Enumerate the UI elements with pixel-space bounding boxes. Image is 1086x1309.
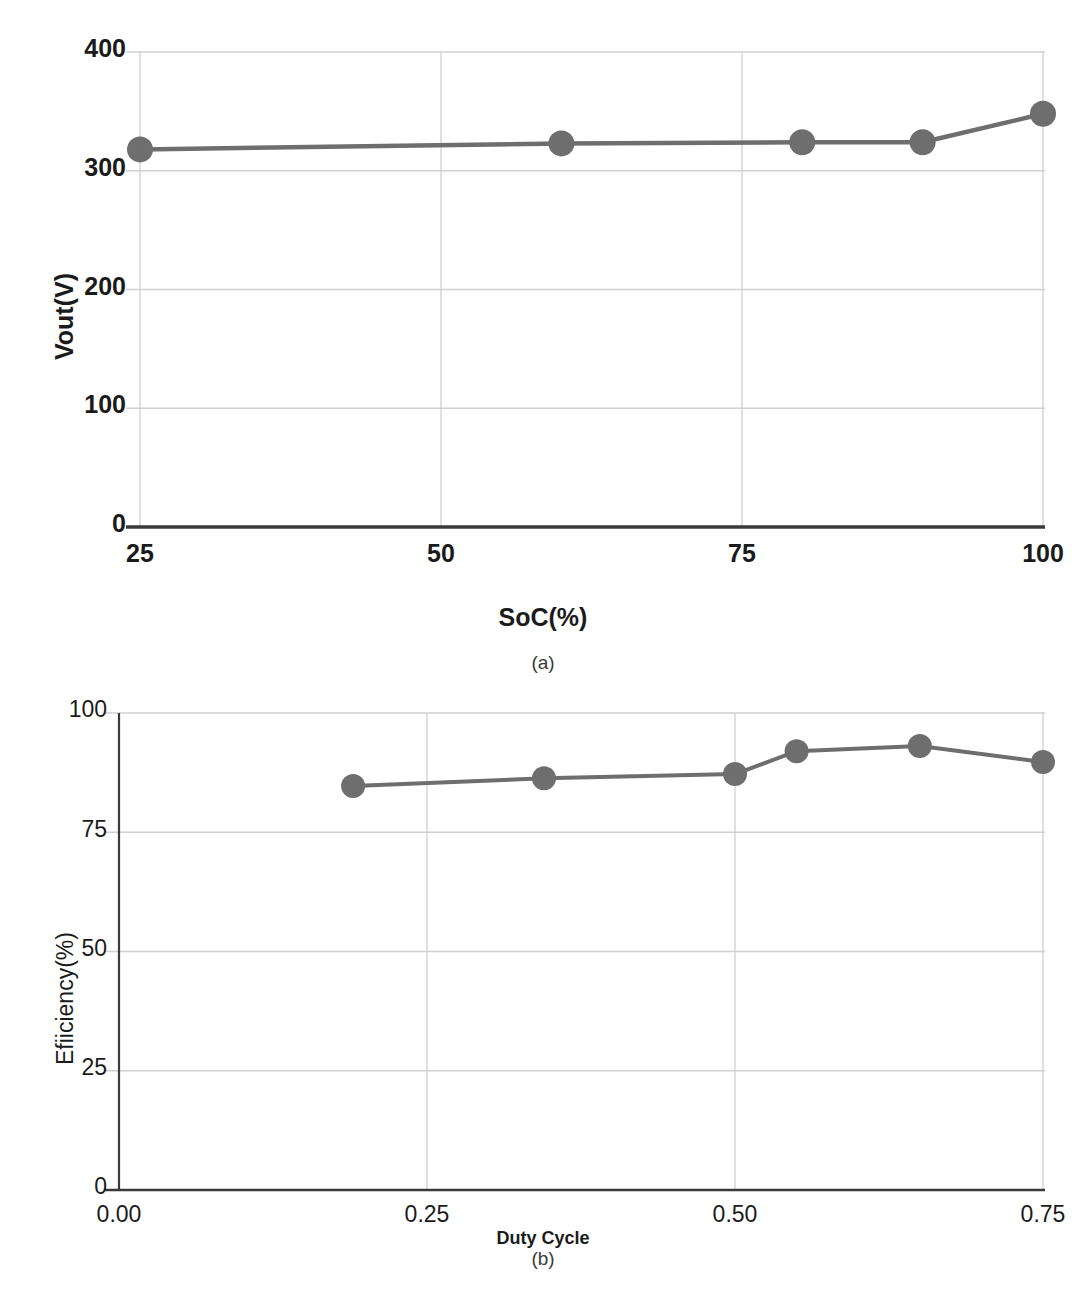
chart-a-xtick-label: 100 — [953, 539, 1086, 568]
chart-a-ytick-label: 300 — [84, 153, 126, 182]
figure-page: 0100200300400255075100 Vout(V) SoC(%) (a… — [0, 0, 1086, 1309]
chart-b-xtick-label: 0.25 — [337, 1201, 517, 1228]
chart-b-svg — [0, 660, 1086, 1220]
chart-b-data-point-3 — [785, 739, 809, 763]
chart-a-series-line — [140, 114, 1043, 150]
chart-b-gridlines — [105, 713, 1045, 1190]
chart-b-ytick-label: 50 — [81, 935, 107, 962]
chart-a-svg — [0, 0, 1086, 620]
chart-a-gridlines — [126, 52, 1045, 527]
chart-a-data-point-4 — [1030, 101, 1056, 127]
chart-a-xtick-label: 50 — [351, 539, 531, 568]
chart-b-ytick-label: 100 — [69, 696, 107, 723]
chart-b-container: 02550751000.000.250.500.75 Efiiciency(%)… — [0, 660, 1086, 1309]
chart-b-ytick-label: 0 — [94, 1173, 107, 1200]
chart-a-container: 0100200300400255075100 Vout(V) SoC(%) — [0, 0, 1086, 660]
chart-a-ytick-label: 200 — [84, 272, 126, 301]
chart-b-ytick-label: 25 — [81, 1054, 107, 1081]
chart-b-data-point-2 — [723, 762, 747, 786]
chart-a-ytick-label: 0 — [112, 509, 126, 538]
chart-b-data-point-0 — [341, 774, 365, 798]
chart-b-ylabel: Efiiciency(%) — [52, 932, 79, 1065]
chart-b-xtick-label: 0.50 — [645, 1201, 825, 1228]
chart-b-series-line — [353, 746, 1043, 786]
chart-b-plot-area: 02550751000.000.250.500.75 — [0, 660, 1086, 1220]
chart-a-data-point-3 — [910, 129, 936, 155]
chart-a-ytick-label: 400 — [84, 34, 126, 63]
chart-b-xtick-label: 0.00 — [29, 1201, 209, 1228]
chart-b-data-point-5 — [1031, 750, 1055, 774]
chart-b-data-point-1 — [532, 766, 556, 790]
chart-a-ylabel: Vout(V) — [50, 273, 79, 360]
chart-a-xtick-label: 25 — [50, 539, 230, 568]
chart-a-data-point-1 — [548, 130, 574, 156]
chart-a-data-point-0 — [127, 136, 153, 162]
chart-a-plot-area: 0100200300400255075100 — [0, 0, 1086, 620]
chart-b-data-point-4 — [908, 734, 932, 758]
chart-b-ytick-label: 75 — [81, 816, 107, 843]
caption-b: (b) — [0, 1248, 1086, 1270]
chart-a-ytick-label: 100 — [84, 390, 126, 419]
chart-a-data-point-2 — [789, 129, 815, 155]
chart-b-xtick-label: 0.75 — [953, 1201, 1086, 1228]
chart-a-xlabel: SoC(%) — [0, 603, 1086, 632]
chart-a-xtick-label: 75 — [652, 539, 832, 568]
chart-b-xlabel: Duty Cycle — [0, 1228, 1086, 1249]
